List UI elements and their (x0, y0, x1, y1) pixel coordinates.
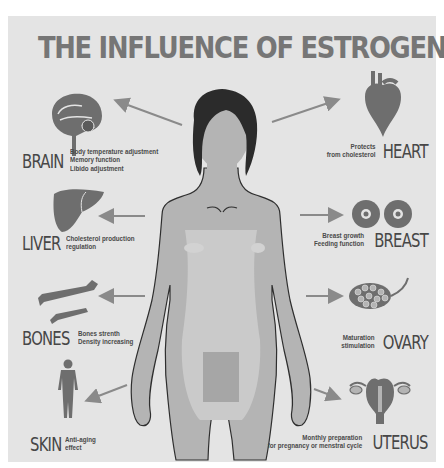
liver-label: LIVER Cholesterol production regulation (22, 232, 150, 254)
arrow-uterus (314, 389, 338, 398)
uterus-label: Monthly preparation for pregnancy or men… (247, 431, 428, 453)
brain-label: BRAIN Body temperature adjustment Memory… (22, 148, 178, 173)
breast-effects: Breast growth Feeding function (314, 232, 364, 249)
bones-effects: Bones strenth Density increasing (78, 330, 133, 347)
brain-effects: Body temperature adjustment Memory funct… (70, 148, 158, 173)
liver-effects: Cholesterol production regulation (66, 235, 134, 252)
liver-name: LIVER (22, 232, 61, 254)
ovary-name: OVARY (383, 331, 428, 353)
uterus-name: UTERUS (373, 431, 428, 453)
arrow-heart (272, 100, 337, 122)
skin-label: SKIN Anti-aging effect (30, 433, 103, 455)
heart-effects: Protects from cholesterol (326, 143, 375, 160)
bones-label: BONES Bones strenth Density increasing (22, 327, 145, 349)
arrow-brain (117, 101, 182, 125)
skin-icon (58, 360, 78, 419)
heart-label: Protects from cholesterol HEART (316, 140, 428, 162)
liver-icon (53, 189, 104, 232)
breast-label: Breast growth Feeding function BREAST (303, 229, 428, 251)
bones-name: BONES (22, 327, 70, 349)
ovary-icon (349, 278, 408, 309)
breast-icon (352, 200, 412, 228)
brain-name: BRAIN (22, 150, 64, 172)
uterus-effects: Monthly preparation for pregnancy or men… (268, 434, 362, 451)
arrow-skin (88, 385, 127, 400)
skin-effects: Anti-aging effect (65, 436, 96, 453)
ovary-effects: Maturation stimulation (342, 334, 375, 351)
bones-icon (38, 280, 98, 324)
breast-name: BREAST (374, 229, 428, 251)
heart-name: HEART (383, 140, 428, 162)
skin-name: SKIN (30, 433, 61, 455)
uterus-icon (350, 379, 410, 425)
heart-icon (365, 71, 401, 137)
woman-body-figure (131, 89, 310, 460)
ovary-label: Maturation stimulation OVARY (334, 331, 428, 353)
